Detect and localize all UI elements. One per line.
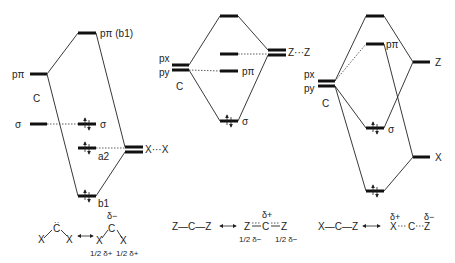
top-label: pπ (b1) (100, 28, 133, 39)
ligand-label: X···X (145, 144, 169, 155)
svg-text:C: C (408, 221, 415, 232)
svg-text:X: X (435, 152, 442, 163)
diagram-3: px py C pπ σ Z X X—C—Z δ+ X C Z δ− (304, 16, 442, 232)
sigma-mid-label: σ (100, 119, 107, 130)
svg-text:px: px (304, 69, 315, 80)
diagram-1: pπ C σ pπ (b1) σ a2 b1 X···X X C ·· X (12, 28, 169, 258)
ligand-label: Z···Z (288, 47, 310, 58)
svg-text:X: X (38, 234, 45, 245)
resonance-2: Z—C—Z Z C Z δ+ 1/2 δ− 1/2 δ− (172, 210, 298, 244)
carbon-label: C (176, 81, 183, 92)
px-label: px (159, 53, 170, 64)
svg-text:C: C (262, 221, 269, 232)
a2-label: a2 (98, 151, 110, 162)
svg-text:C: C (322, 98, 329, 109)
charge-top: δ− (107, 211, 117, 221)
carbon-label: C (33, 93, 40, 104)
diagram-2: px py C pπ σ Z···Z Z—C—Z Z C Z δ+ 1/2 δ−… (159, 16, 310, 244)
svg-text:δ−: δ− (424, 212, 434, 222)
svg-text:C: C (108, 223, 115, 234)
resonance-1: X C ·· X δ− C X X 1/2 δ+ 1/2 δ+ (38, 211, 139, 258)
svg-text:1/2 δ−: 1/2 δ− (275, 235, 298, 244)
resonance-3: X—C—Z δ+ X C Z δ− (318, 212, 434, 232)
charge-left: 1/2 δ+ (90, 249, 113, 258)
b1-label: b1 (98, 198, 110, 209)
svg-text:X: X (96, 235, 103, 246)
py-label: py (159, 67, 170, 78)
svg-text:X—C—Z: X—C—Z (318, 221, 358, 232)
svg-text:Z: Z (281, 221, 287, 232)
p-pi-label: pπ (242, 66, 255, 77)
sigma-label: σ (242, 116, 249, 127)
svg-text:δ+: δ+ (262, 210, 272, 220)
svg-text:py: py (304, 83, 315, 94)
svg-text:Z: Z (424, 221, 430, 232)
charge-right: 1/2 δ+ (116, 249, 139, 258)
svg-text:Z: Z (244, 221, 250, 232)
svg-text:Z: Z (435, 57, 441, 68)
svg-text:X: X (390, 221, 397, 232)
svg-text:σ: σ (388, 124, 395, 135)
svg-text:··: ·· (54, 218, 59, 227)
c-sigma-label: σ (15, 119, 22, 130)
c-p-pi-label: pπ (12, 69, 25, 80)
svg-text:pπ: pπ (386, 39, 399, 50)
svg-text:Z—C—Z: Z—C—Z (172, 221, 211, 232)
mo-diagrams: pπ C σ pπ (b1) σ a2 b1 X···X X C ·· X (0, 0, 455, 263)
svg-text:1/2 δ−: 1/2 δ− (239, 235, 262, 244)
